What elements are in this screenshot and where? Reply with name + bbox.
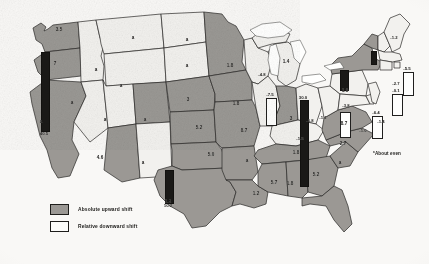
value-new-york: 1.9 xyxy=(342,89,349,94)
texas-bar-value: 10.2 xyxy=(164,203,173,208)
value-vermont-nh: -1.0 xyxy=(359,129,367,133)
state-minnesota[interactable] xyxy=(204,12,246,76)
value-maine: -1.2 xyxy=(390,36,398,40)
florida-bar-value: 30.0 xyxy=(299,95,308,100)
state-rhode-island[interactable] xyxy=(394,62,400,68)
figure-canvas: 40.510.230.0-7.5-6.4-0.1-5.5 3.57aaaaaaa… xyxy=(0,0,429,264)
legend-swatch-upward xyxy=(50,204,69,215)
massachusetts-bar-value: -5.5 xyxy=(403,66,411,71)
footnote-about-even: *About even xyxy=(373,151,401,156)
massachusetts-bar[interactable] xyxy=(403,72,414,96)
state-kansas[interactable] xyxy=(170,110,216,144)
value-new-jersey: -1.4 xyxy=(377,120,385,124)
value-georgia: 5.2 xyxy=(313,173,320,178)
value-minnesota: 1.8 xyxy=(227,64,234,69)
legend-item-upward: Absolute upward shift xyxy=(50,204,137,215)
value-pennsylvania: -3.8 xyxy=(342,104,350,108)
state-arkansas[interactable] xyxy=(222,146,258,180)
value-connecticut: -2.7 xyxy=(392,82,400,86)
value-arkansas: a xyxy=(246,159,249,164)
value-michigan: 1.4 xyxy=(283,60,290,65)
value-california: a xyxy=(40,120,43,125)
illinois-bar[interactable] xyxy=(266,98,277,126)
state-colorado[interactable] xyxy=(133,82,170,124)
value-missouri: 8.7 xyxy=(241,129,248,134)
value-kansas: 5.2 xyxy=(196,126,203,131)
value-tennessee: 1.8 xyxy=(293,151,300,156)
value-new-mexico: a xyxy=(142,161,145,166)
value-utah: a xyxy=(104,118,107,123)
value-iowa: 1.8 xyxy=(233,102,240,107)
legend-item-downward: Relative downward shift xyxy=(50,221,137,232)
legend-label-downward: Relative downward shift xyxy=(78,224,137,229)
state-missouri[interactable] xyxy=(214,100,260,148)
legend-label-upward: Absolute upward shift xyxy=(78,207,133,212)
state-florida[interactable] xyxy=(302,186,352,232)
illinois-bar-value: -7.5 xyxy=(266,92,274,97)
value-nebraska: 3 xyxy=(187,98,190,103)
state-oklahoma[interactable] xyxy=(171,142,226,170)
lake-erie xyxy=(302,74,326,84)
state-iowa[interactable] xyxy=(209,70,252,102)
value-nevada: a xyxy=(71,101,74,106)
value-indiana: 3 xyxy=(290,117,293,122)
value-north-carolina: 2.7 xyxy=(340,142,347,147)
value-oregon: 7 xyxy=(54,62,57,67)
value-wyoming: a xyxy=(120,84,123,89)
value-kentucky: -1.5 xyxy=(296,137,304,141)
value-oklahoma: 5.0 xyxy=(208,153,215,158)
value-arizona: 4.6 xyxy=(97,156,104,161)
value-washington: 3.5 xyxy=(56,28,63,33)
value-north-dakota: a xyxy=(186,38,189,43)
value-colorado: a xyxy=(144,118,147,123)
value-idaho: a xyxy=(95,68,98,73)
state-connecticut[interactable] xyxy=(380,60,392,70)
value-ohio: -5.8 xyxy=(306,119,314,123)
connecticut-bar[interactable] xyxy=(392,94,403,116)
value-south-dakota: a xyxy=(186,64,189,69)
connecticut-bar-value: -0.1 xyxy=(392,88,400,93)
california-bar-value: 40.5 xyxy=(40,131,49,136)
value-virginia: 8.7 xyxy=(341,122,348,127)
state-wyoming[interactable] xyxy=(104,48,166,86)
value-alabama: 1.8 xyxy=(287,182,294,187)
vermont-bar[interactable] xyxy=(371,51,377,65)
value-montana: a xyxy=(132,36,135,41)
value-louisiana: 1.2 xyxy=(253,192,260,197)
state-north-dakota[interactable] xyxy=(161,12,206,48)
value-wisconsin: -4.8 xyxy=(258,73,266,77)
state-nebraska[interactable] xyxy=(166,76,215,112)
state-california[interactable] xyxy=(30,80,86,178)
state-arizona[interactable] xyxy=(104,124,140,182)
maryland-bar-value: -6.4 xyxy=(372,110,380,115)
legend: Absolute upward shift Relative downward … xyxy=(50,204,137,238)
value-mississippi: 5.7 xyxy=(271,181,278,186)
legend-swatch-downward xyxy=(50,221,69,232)
state-montana[interactable] xyxy=(96,14,164,54)
value-south-carolina: a xyxy=(339,161,342,166)
florida-bar[interactable] xyxy=(300,100,309,187)
value-west-virginia: -1.1 xyxy=(319,116,327,120)
